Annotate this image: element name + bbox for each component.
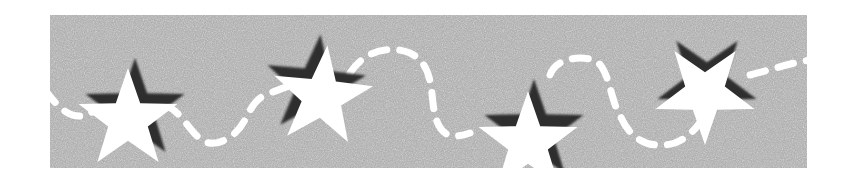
star-banner-graphic [50, 15, 807, 168]
star-banner [50, 15, 807, 168]
